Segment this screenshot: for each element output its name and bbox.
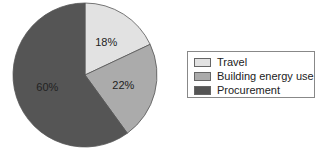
legend-swatch-icon xyxy=(194,58,211,67)
legend-label: Travel xyxy=(217,56,247,68)
legend-swatch-icon xyxy=(194,86,211,95)
slice-value-label: 60% xyxy=(36,81,58,93)
slice-value-label: 18% xyxy=(95,36,117,48)
pie-chart xyxy=(0,0,170,154)
legend-label: Procurement xyxy=(217,84,280,96)
legend-item-building-energy-use: Building energy use xyxy=(194,69,314,83)
legend-item-procurement: Procurement xyxy=(194,83,280,97)
slice-value-label: 22% xyxy=(112,79,134,91)
legend: Travel Building energy use Procurement xyxy=(187,51,315,98)
legend-label: Building energy use xyxy=(217,70,314,82)
legend-swatch-icon xyxy=(194,72,211,81)
legend-item-travel: Travel xyxy=(194,55,247,69)
